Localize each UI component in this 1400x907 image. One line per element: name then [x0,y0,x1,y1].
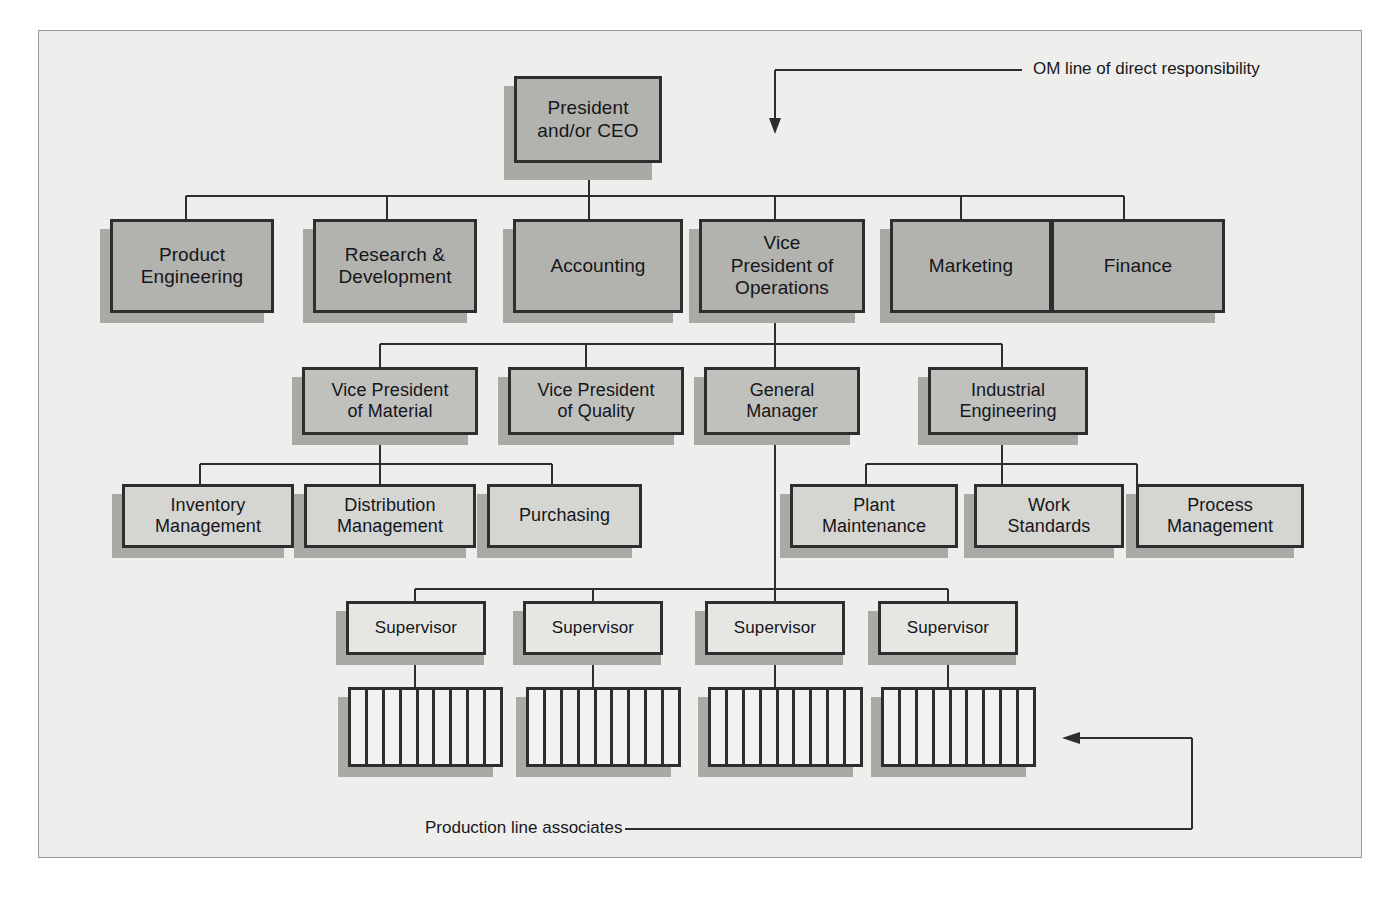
inventory-management-line1: Inventory [171,495,246,515]
distribution-management-line2: Management [337,516,443,536]
production-line-2[interactable] [526,687,681,767]
inventory-management-line2: Management [155,516,261,536]
purchasing-label: Purchasing [515,505,614,526]
vp-operations-line2: President of [731,255,834,276]
node-accounting[interactable]: Accounting [513,219,683,313]
general-manager-line2: Manager [746,401,818,421]
plant-maintenance-line2: Maintenance [822,516,926,536]
production-cell [486,690,500,764]
vp-quality-line2: of Quality [557,401,634,421]
node-work-standards[interactable]: Work Standards [974,484,1124,548]
node-distribution-management[interactable]: Distribution Management [304,484,476,548]
president-label-line1: President [547,97,628,118]
vp-operations-line3: Operations [735,277,829,298]
general-manager-line1: General [750,380,815,400]
distribution-management-line1: Distribution [344,495,435,515]
production-cell [901,690,918,764]
production-cell [935,690,952,764]
industrial-engineering-line1: Industrial [971,380,1045,400]
production-cell [469,690,486,764]
production-cell [630,690,647,764]
product-engineering-line2: Engineering [141,266,244,287]
node-marketing[interactable]: Marketing [890,219,1052,313]
supervisor-2-label: Supervisor [548,618,638,638]
production-cell [1002,690,1019,764]
production-line-4[interactable] [881,687,1036,767]
production-cell [351,690,368,764]
node-president[interactable]: President and/or CEO [514,76,662,163]
node-vp-quality[interactable]: Vice President of Quality [508,367,684,435]
node-inventory-management[interactable]: Inventory Management [122,484,294,548]
production-cell [385,690,402,764]
production-cell [1019,690,1033,764]
production-cell [580,690,597,764]
node-general-manager[interactable]: General Manager [704,367,860,435]
node-purchasing[interactable]: Purchasing [487,484,642,548]
industrial-engineering-line2: Engineering [959,401,1056,421]
production-cell [368,690,385,764]
node-vp-material[interactable]: Vice President of Material [302,367,478,435]
research-development-line1: Research & [345,244,445,265]
production-cell [779,690,796,764]
president-label-line2: and/or CEO [537,120,638,141]
node-product-engineering[interactable]: Product Engineering [110,219,274,313]
production-cell [597,690,614,764]
diagram-canvas: President and/or CEO Product Engineering… [0,0,1400,907]
production-cell [795,690,812,764]
production-cell [745,690,762,764]
production-cell [968,690,985,764]
node-research-development[interactable]: Research & Development [313,219,477,313]
node-finance[interactable]: Finance [1051,219,1225,313]
production-cell [546,690,563,764]
vp-quality-line1: Vice President [537,380,654,400]
production-cell [452,690,469,764]
production-cell [529,690,546,764]
process-management-line1: Process [1187,495,1253,515]
vp-material-line1: Vice President [331,380,448,400]
node-plant-maintenance[interactable]: Plant Maintenance [790,484,958,548]
vp-operations-line1: Vice [763,232,800,253]
work-standards-line2: Standards [1008,516,1091,536]
production-cell [711,690,728,764]
production-cell [952,690,969,764]
finance-label: Finance [1100,255,1176,277]
accounting-label: Accounting [546,255,649,277]
production-cell [435,690,452,764]
production-cell [664,690,678,764]
production-line-3[interactable] [708,687,863,767]
supervisor-4-label: Supervisor [903,618,993,638]
node-supervisor-3[interactable]: Supervisor [705,601,845,655]
node-supervisor-1[interactable]: Supervisor [346,601,486,655]
node-industrial-engineering[interactable]: Industrial Engineering [928,367,1088,435]
work-standards-line1: Work [1028,495,1070,515]
node-supervisor-4[interactable]: Supervisor [878,601,1018,655]
supervisor-1-label: Supervisor [371,618,461,638]
production-cell [613,690,630,764]
annotation-production-line-associates: Production line associates [425,818,623,838]
production-cell [829,690,846,764]
production-cell [762,690,779,764]
plant-maintenance-line1: Plant [853,495,895,515]
supervisor-3-label: Supervisor [730,618,820,638]
node-process-management[interactable]: Process Management [1136,484,1304,548]
production-line-1[interactable] [348,687,503,767]
production-cell [419,690,436,764]
production-cell [884,690,901,764]
production-cell [402,690,419,764]
annotation-om-line: OM line of direct responsibility [1033,59,1260,79]
production-cell [812,690,829,764]
node-vp-operations[interactable]: Vice President of Operations [699,219,865,313]
production-cell [563,690,580,764]
research-development-line2: Development [338,266,451,287]
production-cell [846,690,860,764]
vp-material-line2: of Material [347,401,432,421]
process-management-line2: Management [1167,516,1273,536]
production-cell [918,690,935,764]
product-engineering-line1: Product [159,244,225,265]
node-supervisor-2[interactable]: Supervisor [523,601,663,655]
production-cell [985,690,1002,764]
production-cell [647,690,664,764]
marketing-label: Marketing [925,255,1017,277]
production-cell [728,690,745,764]
